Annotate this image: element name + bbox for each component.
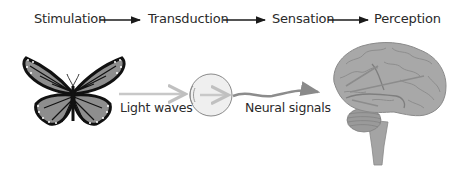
light-waves-label: Light waves <box>120 100 192 115</box>
butterfly-icon <box>24 58 124 124</box>
neural-signals-label: Neural signals <box>245 100 331 115</box>
perception-diagram: Stimulation Transduction Sensation Perce… <box>0 0 470 170</box>
brain-icon <box>334 43 446 165</box>
eye-icon <box>190 74 232 116</box>
neural-signals-arrow <box>233 91 318 97</box>
diagram-graphics <box>0 0 470 170</box>
